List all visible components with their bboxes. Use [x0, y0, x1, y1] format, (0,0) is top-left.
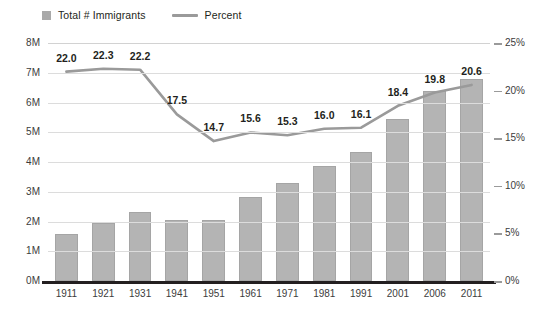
gridline	[48, 222, 490, 223]
y-tick-left: 5M	[6, 126, 40, 137]
percent-label-1981: 16.0	[314, 109, 334, 121]
y-tick-mark-right	[494, 43, 502, 45]
y-tick-mark-right	[494, 91, 502, 93]
legend-label: Percent	[205, 9, 242, 21]
y-tick-mark-right	[494, 233, 502, 235]
y-tick-right: 25%	[505, 37, 545, 48]
percent-label-1961: 15.6	[240, 112, 260, 124]
y-tick-right: 15%	[505, 132, 545, 143]
x-tick-1971: 1971	[276, 288, 298, 299]
y-tick-right: 20%	[505, 85, 545, 96]
percent-line-path	[66, 69, 471, 141]
percent-label-2006: 19.8	[425, 73, 445, 85]
gridline	[48, 103, 490, 104]
percent-label-1991: 16.1	[351, 108, 371, 120]
x-tick-2006: 2006	[424, 288, 446, 299]
x-tick-1931: 1931	[129, 288, 151, 299]
immigrants-percent-chart: Total # ImmigrantsPercent 0M1M2M3M4M5M6M…	[0, 0, 550, 317]
y-tick-right: 10%	[505, 180, 545, 191]
x-tick-1981: 1981	[313, 288, 335, 299]
y-tick-left: 7M	[6, 67, 40, 78]
gridline	[48, 251, 490, 252]
legend-label: Total # Immigrants	[58, 9, 146, 21]
y-tick-left: 8M	[6, 37, 40, 48]
y-tick-mark-right	[494, 281, 502, 283]
x-tick-1911: 1911	[56, 288, 78, 299]
percent-label-2001: 18.4	[388, 86, 408, 98]
x-tick-1921: 1921	[92, 288, 114, 299]
x-axis-labels: 1911192119311941195119611971198119912001…	[48, 288, 490, 308]
y-tick-left: 6M	[6, 97, 40, 108]
x-tick-2011: 2011	[461, 288, 483, 299]
legend-square-icon	[42, 11, 51, 20]
legend-line-icon	[172, 14, 198, 17]
x-tick-2001: 2001	[387, 288, 409, 299]
x-tick-1961: 1961	[239, 288, 261, 299]
percent-label-1911: 22.0	[56, 52, 76, 64]
y-tick-left: 2M	[6, 216, 40, 227]
y-tick-right: 0%	[505, 275, 545, 286]
percent-label-2011: 20.6	[461, 65, 481, 77]
percent-label-1941: 17.5	[167, 94, 187, 106]
percent-label-1931: 22.2	[130, 50, 150, 62]
x-tick-1991: 1991	[350, 288, 372, 299]
x-axis-baseline	[42, 281, 496, 284]
x-tick-1941: 1941	[166, 288, 188, 299]
y-tick-left: 1M	[6, 245, 40, 256]
y-tick-right: 5%	[505, 227, 545, 238]
gridline	[48, 132, 490, 133]
y-tick-left: 3M	[6, 186, 40, 197]
percent-label-1951: 14.7	[204, 121, 224, 133]
chart-legend: Total # ImmigrantsPercent	[42, 9, 241, 21]
legend-total-immigrants: Total # Immigrants	[42, 9, 146, 21]
gridline	[48, 192, 490, 193]
y-tick-left: 4M	[6, 156, 40, 167]
y-tick-left: 0M	[6, 275, 40, 286]
gridline	[48, 162, 490, 163]
legend-percent: Percent	[172, 9, 242, 21]
y-tick-mark-right	[494, 186, 502, 188]
x-tick-1951: 1951	[203, 288, 225, 299]
gridline	[48, 43, 490, 44]
percent-label-1921: 22.3	[93, 49, 113, 61]
percent-label-1971: 15.3	[277, 115, 297, 127]
y-tick-mark-right	[494, 138, 502, 140]
